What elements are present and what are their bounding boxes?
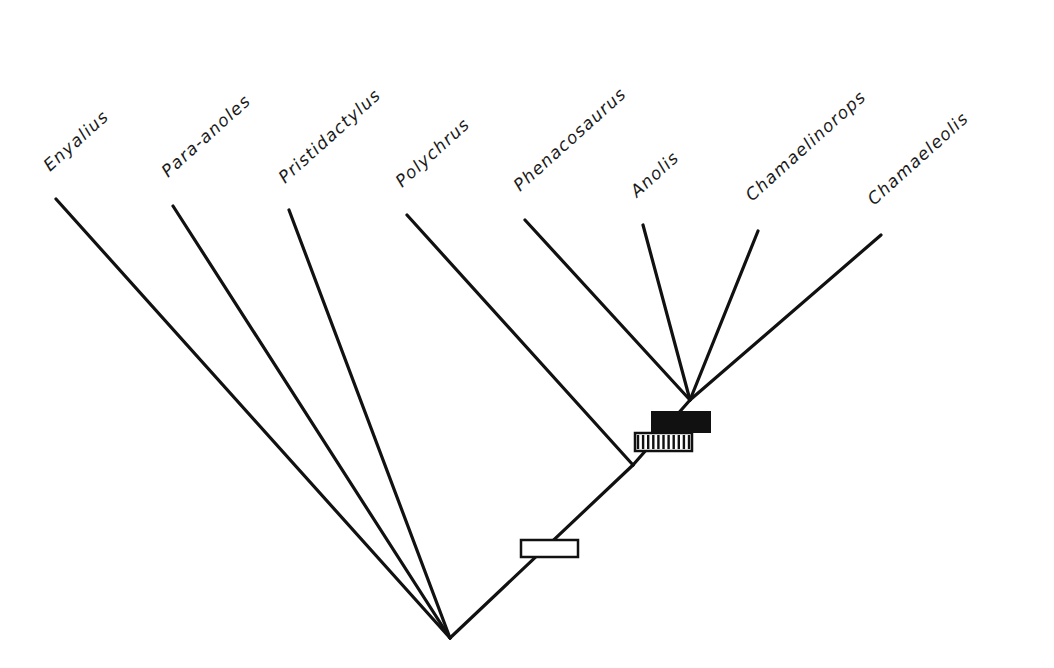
open-character-bar	[521, 540, 578, 557]
taxon-label-para-anoles: Para-anoles	[157, 90, 254, 181]
branches	[56, 199, 881, 638]
branch-enyalius	[56, 199, 450, 638]
phylogeny-diagram: Enyalius Para-anoles Pristidactylus Poly…	[0, 0, 1054, 668]
branch-chamaelinorops	[690, 231, 758, 400]
taxon-label-chamaelinorops: Chamaelinorops	[741, 86, 870, 205]
taxon-label-pristidactylus: Pristidactylus	[274, 85, 384, 187]
solid-character-bar	[652, 412, 710, 432]
taxon-label-enyalius: Enyalius	[39, 106, 112, 175]
branch-chamaeleolis	[690, 235, 881, 400]
hatched-character-bar	[635, 433, 692, 451]
taxon-label-phenacosaurus: Phenacosaurus	[509, 83, 630, 195]
taxon-label-chamaeleolis: Chamaeleolis	[863, 108, 972, 209]
taxon-label-polychrus: Polychrus	[391, 114, 473, 191]
taxon-label-anolis: Anolis	[626, 147, 683, 202]
branch-polychrus	[407, 215, 633, 465]
tree-canvas: Enyalius Para-anoles Pristidactylus Poly…	[0, 0, 1054, 668]
character-markers	[521, 412, 710, 557]
taxon-labels: Enyalius Para-anoles Pristidactylus Poly…	[39, 83, 972, 209]
